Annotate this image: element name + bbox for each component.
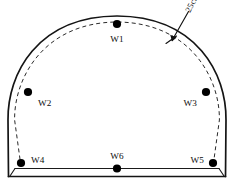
monitoring-point-w1-dot[interactable] bbox=[113, 20, 121, 28]
monitoring-point-w4-dot[interactable] bbox=[17, 159, 25, 167]
tunnel-diagram-svg: 25cm W1 W2 W3 W4 W5 W6 bbox=[0, 0, 236, 189]
monitoring-point-w6-label: W6 bbox=[110, 151, 124, 161]
monitoring-point-w5-label: W5 bbox=[191, 155, 205, 165]
monitoring-point-w6-dot[interactable] bbox=[113, 164, 121, 172]
monitoring-point-w1-label: W1 bbox=[110, 34, 124, 44]
dimension-label-25cm: 25cm bbox=[183, 0, 201, 14]
monitoring-point-w5-dot[interactable] bbox=[209, 159, 217, 167]
tunnel-slab-right-end bbox=[219, 169, 224, 177]
monitoring-point-w2-dot[interactable] bbox=[24, 88, 32, 96]
tunnel-slab-left-end bbox=[10, 169, 15, 177]
monitoring-point-w3-label: W3 bbox=[184, 98, 198, 108]
monitoring-point-w2-label: W2 bbox=[38, 98, 52, 108]
monitoring-point-w4-label: W4 bbox=[31, 155, 45, 165]
monitoring-point-w3-dot[interactable] bbox=[202, 88, 210, 96]
tunnel-cross-section-figure: 25cm W1 W2 W3 W4 W5 W6 bbox=[0, 0, 236, 189]
